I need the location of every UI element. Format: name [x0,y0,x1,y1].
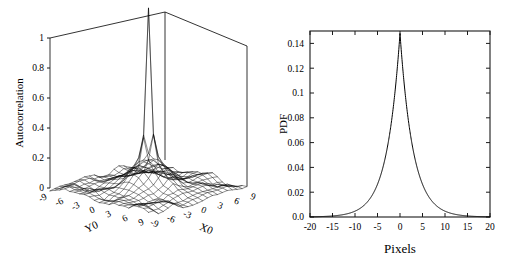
pdf-x-tick-label: 5 [420,222,425,232]
figure-container: 1 0.8 0.6 0.4 0.2 0 Autocorrelation -9-6… [0,0,519,262]
pdf-x-tick-label: 20 [485,222,495,232]
figure-svg: 1 0.8 0.6 0.4 0.2 0 Autocorrelation -9-6… [0,0,519,262]
z-tick-label: 1 [39,33,44,43]
pdf-plot-frame [310,31,490,217]
x0-tick-label: 6 [233,196,241,207]
surface-mesh-line [104,134,202,201]
x0-tick-label: -9 [149,217,160,229]
x0-tick-label: 3 [216,200,224,211]
pdf-y-tick-label: 0.12 [287,64,304,74]
pdf-x-tick-label: 0 [398,222,403,232]
y0-axis-title: Y0 [83,218,101,235]
y0-tick-label: 6 [120,213,129,224]
surface-mesh-line [104,135,203,203]
y0-tick-label: 9 [137,217,146,228]
z-axis-ticks [47,38,50,188]
surface-mesh-line [50,160,149,191]
autocorrelation-surface-panel: 1 0.8 0.6 0.4 0.2 0 Autocorrelation -9-6… [13,8,257,237]
pdf-y-tick-label: 0.06 [287,138,304,148]
pdf-x-axis-ticks: -20-15-10-505101520 [304,31,495,232]
box-top-edges [50,12,247,46]
pdf-y-tick-label: 0.04 [287,163,304,173]
surface-mesh-line [84,165,183,195]
surface-mesh [50,8,247,214]
surface-mesh-line [149,187,248,214]
y0-tick-label: -3 [70,200,82,213]
z-tick-label: 0.6 [32,93,44,103]
surface-mesh-line [65,165,164,189]
surface-mesh-line [144,162,243,189]
pdf-y-tick-label: 0.14 [287,39,304,49]
pdf-y-tick-label: 0.02 [287,188,304,198]
pdf-x-tick-label: -10 [349,222,362,232]
surface-box-frame [50,12,247,188]
z-tick-label: 0.4 [32,123,44,133]
x0-tick-label: 9 [249,191,257,202]
pdf-data-curve [310,33,490,216]
pdf-y-axis-title: PDF [277,114,289,134]
pdf-y-tick-label: 0.0 [292,212,304,222]
x0-tick-label: -3 [182,208,193,220]
pdf-x-tick-label: 15 [463,222,473,232]
z-axis-title: Autocorrelation [13,78,25,148]
y0-tick-label: -9 [37,191,49,204]
surface-mesh-line [55,187,153,211]
z-axis-tick-labels: 1 0.8 0.6 0.4 0.2 0 [32,33,44,193]
surface-mesh-line [99,8,198,203]
z-tick-label: 0.8 [32,63,44,73]
y0-tick-label: 0 [88,204,97,215]
x0-tick-label: -6 [165,213,176,225]
surface-mesh-line [60,164,159,190]
pdf-y-tick-label: 0.08 [287,113,304,123]
pdf-line-panel: 0.00.020.040.060.080.10.120.14 -20-15-10… [277,31,495,256]
z-tick-label: 0.2 [32,153,44,163]
pdf-y-axis-ticks: 0.00.020.040.060.080.10.120.14 [287,39,490,223]
y0-tick-label: 3 [104,208,113,219]
pdf-x-tick-label: -20 [304,222,317,232]
y0-tick-label: -6 [53,196,65,209]
x0-axis-title: X0 [198,220,215,236]
surface-mesh-line [99,8,198,203]
pdf-y-tick-label: 0.1 [292,88,304,98]
x0-tick-label: 0 [200,204,208,215]
pdf-x-tick-label: 10 [440,222,450,232]
pdf-x-axis-title: Pixels [384,241,416,256]
pdf-x-tick-label: -5 [374,222,382,232]
pdf-x-tick-label: -15 [326,222,339,232]
